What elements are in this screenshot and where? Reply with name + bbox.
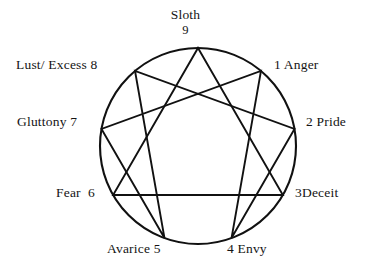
hexad-path-1-4-2-8-5-7: [101, 71, 294, 238]
point-label-2: 2 Pride: [306, 114, 346, 129]
point-label-6: Fear 6: [56, 185, 95, 200]
point-label-5: Avarice 5: [107, 241, 161, 256]
point-label-7: Gluttony 7: [17, 114, 77, 129]
enneagram-diagram: Sloth9 Lust/ Excess 8 1 Anger Gluttony 7…: [0, 0, 371, 273]
enneagram-figure: [0, 0, 371, 273]
point-label-3: 3Deceit: [295, 185, 338, 200]
point-label-9-text: Sloth: [171, 7, 201, 22]
inner-triangle-9-3-6: [113, 48, 283, 195]
point-label-4: 4 Envy: [227, 241, 267, 256]
outer-circle: [100, 48, 296, 244]
point-number-9: 9: [0, 23, 371, 37]
point-label-9: Sloth9: [0, 7, 371, 37]
point-label-1: 1 Anger: [274, 57, 319, 72]
point-label-8: Lust/ Excess 8: [16, 57, 98, 72]
